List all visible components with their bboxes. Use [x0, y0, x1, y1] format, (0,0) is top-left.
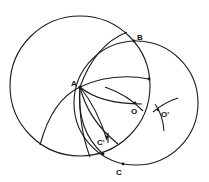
point-o: [134, 102, 137, 105]
label-c: C: [116, 168, 122, 177]
label-a: A: [71, 79, 77, 88]
point-b: [133, 40, 136, 43]
point-mark: [148, 78, 151, 81]
geometry-diagram: A B O O' C' C: [0, 0, 209, 182]
point-lower-intersection: [102, 153, 105, 156]
point-o-prime: [157, 109, 159, 111]
label-c-prime: C': [97, 138, 105, 147]
diagram-svg: A B O O' C' C: [0, 0, 209, 182]
arc-a-down-1: [80, 87, 90, 157]
arc-through-o: [105, 87, 143, 111]
point-c-prime: [106, 136, 109, 139]
point-c: [122, 163, 125, 166]
arc-a-to-mark: [80, 77, 149, 87]
label-b: B: [137, 33, 143, 42]
point-a: [78, 85, 81, 88]
label-o: O: [131, 107, 137, 116]
label-o-prime: O': [161, 110, 169, 119]
